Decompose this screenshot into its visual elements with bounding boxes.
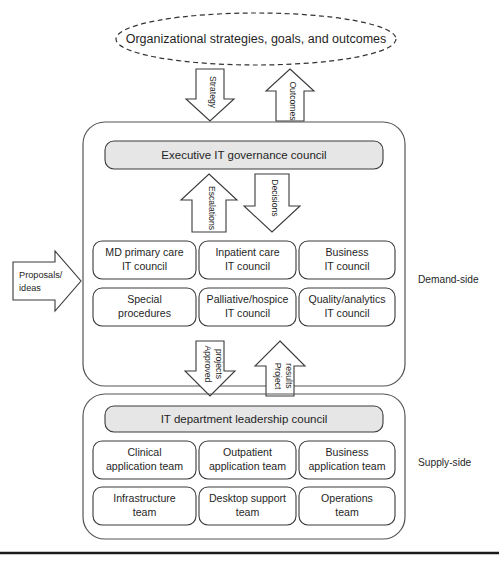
supply-side-label: Supply-side bbox=[418, 457, 472, 468]
outcomes-arrow: Outcomes bbox=[266, 69, 314, 121]
approved-projects-arrow: Approved projects bbox=[185, 341, 235, 396]
council-box[interactable]: Special procedures bbox=[93, 288, 196, 326]
executive-council-label: Executive IT governance council bbox=[161, 149, 326, 161]
team-label-1-line2: application team bbox=[106, 460, 183, 472]
decisions-arrow-label: Decisions bbox=[270, 179, 280, 216]
project-results-label-line1: Project bbox=[273, 363, 283, 390]
approved-projects-label-line1: Approved bbox=[203, 346, 213, 383]
project-results-label-line2: results bbox=[284, 363, 294, 388]
council-label-5-line1: Palliative/hospice bbox=[207, 293, 289, 305]
council-box[interactable]: MD primary care IT council bbox=[93, 241, 196, 279]
team-box[interactable]: Clinical application team bbox=[93, 441, 196, 479]
council-label-2-line2: IT council bbox=[225, 260, 270, 272]
council-label-1-line1: MD primary care bbox=[105, 246, 183, 258]
team-box[interactable]: Operations team bbox=[299, 487, 395, 525]
team-label-4-line2: team bbox=[133, 506, 157, 518]
council-box[interactable]: Inpatient care IT council bbox=[199, 241, 296, 279]
council-label-4-line1: Special bbox=[127, 293, 162, 305]
council-label-6-line2: IT council bbox=[324, 307, 369, 319]
decisions-arrow: Decisions bbox=[244, 174, 300, 232]
organizational-strategies-ellipse: Organizational strategies, goals, and ou… bbox=[116, 13, 396, 65]
project-results-arrow: Project results bbox=[255, 341, 305, 396]
council-label-2-line1: Inpatient care bbox=[215, 246, 279, 258]
team-label-5-line1: Desktop support bbox=[209, 492, 286, 504]
team-box[interactable]: Business application team bbox=[299, 441, 395, 479]
team-box[interactable]: Infrastructure team bbox=[93, 487, 196, 525]
team-label-2-line1: Outpatient bbox=[223, 446, 272, 458]
proposals-ideas-arrow: Proposals/ ideas bbox=[13, 251, 81, 311]
team-label-2-line2: application team bbox=[209, 460, 286, 472]
council-label-3-line1: Business bbox=[326, 246, 369, 258]
council-label-6-line1: Quality/analytics bbox=[308, 293, 385, 305]
team-label-4-line1: Infrastructure bbox=[113, 492, 176, 504]
council-box[interactable]: Business IT council bbox=[299, 241, 395, 279]
executive-it-governance-council-box[interactable]: Executive IT governance council bbox=[105, 141, 383, 169]
it-department-leadership-council-box[interactable]: IT department leadership council bbox=[105, 406, 383, 432]
escalations-arrow-label: Escalations bbox=[207, 186, 217, 230]
council-label-1-line2: IT council bbox=[122, 260, 167, 272]
team-label-6-line1: Operations bbox=[321, 492, 373, 504]
it-leadership-council-label: IT department leadership council bbox=[161, 413, 328, 425]
proposals-ideas-label-line1: Proposals/ bbox=[19, 270, 63, 280]
team-box[interactable]: Outpatient application team bbox=[199, 441, 296, 479]
team-label-3-line1: Business bbox=[326, 446, 369, 458]
council-box[interactable]: Palliative/hospice IT council bbox=[199, 288, 296, 326]
ellipse-label: Organizational strategies, goals, and ou… bbox=[126, 32, 387, 46]
it-governance-diagram-root: Organizational strategies, goals, and ou… bbox=[0, 0, 499, 566]
strategy-arrow: Strategy bbox=[186, 69, 234, 121]
team-label-6-line2: team bbox=[335, 506, 359, 518]
council-label-3-line2: IT council bbox=[324, 260, 369, 272]
escalations-arrow: Escalations bbox=[181, 174, 237, 232]
proposals-ideas-label-line2: ideas bbox=[19, 283, 41, 293]
team-label-3-line2: application team bbox=[308, 460, 385, 472]
team-label-5-line2: team bbox=[236, 506, 260, 518]
council-label-5-line2: IT council bbox=[225, 307, 270, 319]
council-label-4-line2: procedures bbox=[118, 307, 171, 319]
team-label-1-line1: Clinical bbox=[127, 446, 161, 458]
team-box[interactable]: Desktop support team bbox=[199, 487, 296, 525]
it-governance-diagram: Organizational strategies, goals, and ou… bbox=[0, 0, 499, 566]
council-box[interactable]: Quality/analytics IT council bbox=[299, 288, 395, 326]
strategy-arrow-label: Strategy bbox=[208, 76, 218, 109]
proposals-ideas-arrow-shape bbox=[13, 251, 81, 311]
demand-side-label: Demand-side bbox=[418, 274, 479, 285]
approved-projects-label-line2: projects bbox=[214, 349, 224, 379]
outcomes-arrow-label: Outcomes bbox=[288, 81, 298, 120]
